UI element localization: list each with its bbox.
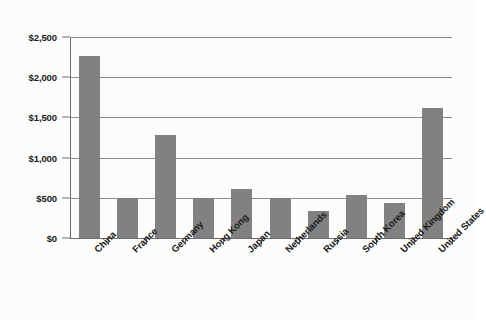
plot-area [70,37,452,238]
y-tick-label: $2,000 [29,72,57,83]
bar-germany [155,135,176,238]
gridline-1000 [70,158,452,159]
bar-china [79,56,100,238]
y-tick-mark [62,37,70,38]
y-axis: $0$500$1,000$1,500$2,000$2,500 [0,0,70,320]
y-tick-mark [62,197,70,198]
y-tick-mark [62,117,70,118]
y-tick-mark [62,157,70,158]
y-tick-label: $2,500 [29,32,57,43]
bar-netherlands [270,198,291,238]
y-tick-label: $1,000 [29,152,57,163]
gridline-2000 [70,77,452,78]
bar-france [117,198,138,238]
y-tick-mark [62,238,70,239]
gridline-1500 [70,117,452,118]
y-tick-label: $500 [36,192,57,203]
y-tick-label: $1,500 [29,112,57,123]
x-axis: ChinaFranceGermanyHong KongJapanNetherla… [70,241,476,320]
y-tick-label: $0 [47,233,57,244]
gridline-2500 [70,37,452,38]
y-tick-mark [62,77,70,78]
